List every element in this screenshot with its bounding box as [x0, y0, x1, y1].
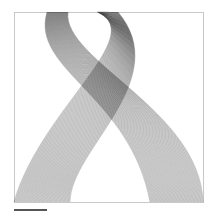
ribbon-group	[14, 12, 203, 202]
generative-line-art	[0, 0, 213, 211]
